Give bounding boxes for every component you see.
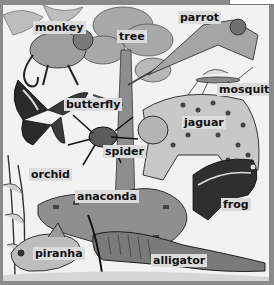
label-tree: tree (117, 30, 147, 43)
label-mosquito: mosquito (217, 83, 269, 96)
label-jaguar: jaguar (182, 116, 226, 129)
label-alligator: alligator (151, 254, 207, 267)
label-frog: frog (221, 198, 251, 211)
rainforest-artwork (3, 5, 269, 281)
label-butterfly: butterfly (64, 98, 122, 111)
label-spider: spider (103, 145, 146, 158)
label-piranha: piranha (33, 247, 85, 260)
label-monkey: monkey (33, 21, 86, 34)
label-orchid: orchid (29, 168, 72, 181)
label-anaconda: anaconda (75, 190, 139, 203)
rainforest-illustration: monkey tree parrot mosquito butterfly ja… (3, 5, 269, 281)
label-parrot: parrot (178, 11, 221, 24)
